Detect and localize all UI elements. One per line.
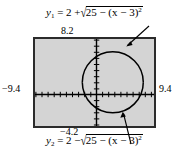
formula-y2-radicand-body: 25 − (x − 3) bbox=[86, 134, 139, 146]
formula-y2-subscript: 2 bbox=[51, 140, 55, 148]
formula-y1-subscript: 1 bbox=[51, 12, 55, 20]
ymin-label: −4.2 bbox=[60, 126, 78, 137]
formula-y1-exponent: 2 bbox=[138, 6, 142, 14]
radical-icon: √ bbox=[81, 133, 87, 148]
formula-y1-radicand-body: 25 − (x − 3) bbox=[86, 6, 139, 18]
xmax-label: 9.4 bbox=[159, 83, 172, 94]
formula-y1-lead: 2 + bbox=[66, 6, 80, 18]
formula-y1-equals: = bbox=[57, 6, 63, 18]
radical-icon: √ bbox=[81, 5, 87, 20]
formula-y1-radicand: 25 − (x − 3)2 bbox=[86, 6, 143, 19]
graph-overlay bbox=[0, 0, 179, 154]
formula-y2-exponent: 2 bbox=[138, 134, 142, 142]
formula-label-y1: y1 = 2 +√25 − (x − 3)2 bbox=[46, 6, 143, 20]
curve-y2-lower-semicircle bbox=[82, 82, 143, 112]
curve-y1-upper-semicircle bbox=[82, 52, 143, 82]
xmin-label: −9.4 bbox=[2, 83, 20, 94]
figure-container: y1 = 2 +√25 − (x − 3)2 y2 = 2 −√25 − (x … bbox=[0, 0, 179, 154]
graph-plot-area bbox=[34, 38, 155, 127]
ymax-label: 8.2 bbox=[61, 25, 74, 36]
formula-y2-radicand: 25 − (x − 3)2 bbox=[86, 134, 143, 147]
top-callout-arrow bbox=[126, 26, 149, 47]
